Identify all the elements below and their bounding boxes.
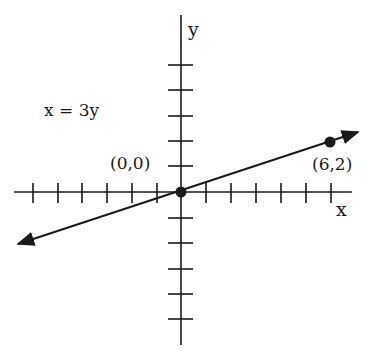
- y-axis: [168, 15, 193, 345]
- x-axis-label: x: [336, 200, 347, 219]
- graph-line: [18, 132, 358, 244]
- origin-label: (0,0): [110, 155, 150, 172]
- equation-label: x = 3y: [44, 102, 99, 119]
- point-6-2-label: (6,2): [312, 156, 352, 173]
- coordinate-plane: [0, 0, 367, 351]
- y-axis-label: y: [188, 20, 199, 39]
- point-origin: [176, 187, 187, 198]
- point-6-2: [325, 137, 336, 148]
